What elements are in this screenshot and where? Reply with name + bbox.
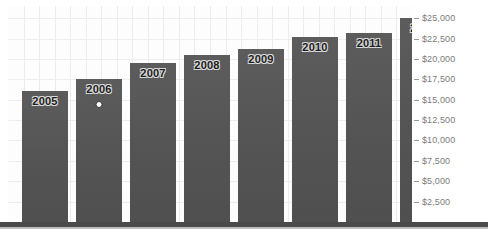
y-axis-tick: $7,500 bbox=[414, 155, 488, 167]
y-axis-tick: $10,000 bbox=[414, 134, 488, 146]
tick-mark-icon bbox=[414, 79, 419, 80]
y-axis-tick: $5,000 bbox=[414, 175, 488, 187]
y-axis-tick: $15,000 bbox=[414, 94, 488, 106]
bar-value-label: 2006 bbox=[76, 83, 122, 95]
bar[interactable]: 2007 bbox=[130, 63, 176, 222]
y-axis-tick: $20,000 bbox=[414, 53, 488, 65]
y-axis-tick: $12,500 bbox=[414, 114, 488, 126]
tick-mark-icon bbox=[414, 181, 419, 182]
tick-mark-icon bbox=[414, 100, 419, 101]
bar-value-label: 2007 bbox=[130, 67, 176, 79]
bar-value-label: 2009 bbox=[238, 53, 284, 65]
tick-mark-icon bbox=[414, 39, 419, 40]
marker-dot-icon bbox=[96, 101, 103, 108]
plot-area: 20052006200720082009201020112012 bbox=[8, 6, 412, 222]
y-axis-tick-label: $25,000 bbox=[422, 13, 455, 23]
bar[interactable]: 2011 bbox=[346, 33, 392, 222]
tick-mark-icon bbox=[414, 120, 419, 121]
y-axis-tick-label: $22,500 bbox=[422, 34, 455, 44]
y-axis-tick-label: $2,500 bbox=[422, 197, 450, 207]
y-axis-tick-label: $5,000 bbox=[422, 176, 450, 186]
bar[interactable]: 2012 bbox=[400, 18, 412, 222]
y-axis-tick: $2,500 bbox=[414, 196, 488, 208]
bar-value-label: 2008 bbox=[184, 59, 230, 71]
tick-mark-icon bbox=[414, 18, 419, 19]
y-axis-tick-label: $20,000 bbox=[422, 54, 455, 64]
bar[interactable]: 2005 bbox=[22, 91, 68, 222]
tick-mark-icon bbox=[414, 140, 419, 141]
y-axis-tick-label: $15,000 bbox=[422, 95, 455, 105]
tick-mark-icon bbox=[414, 202, 419, 203]
bar-value-label: 2010 bbox=[292, 41, 338, 53]
y-axis-tick-label: $10,000 bbox=[422, 135, 455, 145]
y-axis-tick-label: $7,500 bbox=[422, 156, 450, 166]
bar[interactable]: 2008 bbox=[184, 55, 230, 222]
bar-chart: 20052006200720082009201020112012 $25,000… bbox=[0, 0, 488, 240]
tick-mark-icon bbox=[414, 161, 419, 162]
y-axis-tick: $17,500 bbox=[414, 73, 488, 85]
y-axis-tick: $25,000 bbox=[414, 12, 488, 24]
y-axis-tick: $22,500 bbox=[414, 33, 488, 45]
bar[interactable]: 2006 bbox=[76, 79, 122, 222]
gridline-horizontal bbox=[8, 18, 412, 19]
y-axis-tick-label: $17,500 bbox=[422, 74, 455, 84]
bar-value-label: 2011 bbox=[346, 37, 392, 49]
y-axis-tick-label: $12,500 bbox=[422, 115, 455, 125]
y-axis: $25,000$22,500$20,000$17,500$15,000$12,5… bbox=[414, 0, 488, 230]
bar-value-label: 2005 bbox=[22, 95, 68, 107]
bar-value-label: 2012 bbox=[400, 22, 412, 34]
bar[interactable]: 2010 bbox=[292, 37, 338, 222]
tick-mark-icon bbox=[414, 59, 419, 60]
bar[interactable]: 2009 bbox=[238, 49, 284, 222]
